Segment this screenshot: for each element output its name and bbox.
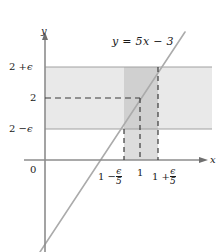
x-tick-label-center: 1 [137, 168, 143, 178]
equation-label: y = 5x − 3 [112, 36, 174, 47]
x-tick-lower-denominator: 5 [116, 176, 122, 186]
y-tick-upper-main: 2 + [9, 61, 27, 72]
x-tick-lower-fraction: ϵ5 [116, 167, 122, 187]
x-tick-label-lower: 1 −ϵ5 [98, 168, 122, 188]
y-tick-lower-epsilon: ϵ [27, 123, 33, 134]
y-tick-lower-main: 2 − [9, 123, 27, 134]
x-axis-label: x [210, 155, 216, 165]
x-tick-label-upper: 1 +ϵ5 [152, 168, 176, 188]
x-tick-upper-numerator: ϵ [170, 167, 176, 176]
y-tick-upper-epsilon: ϵ [27, 61, 33, 72]
y-tick-label-upper: 2 +ϵ [9, 62, 33, 72]
y-axis-label: y [41, 26, 47, 36]
x-tick-upper-lead: 1 + [152, 171, 170, 182]
function-line [40, 32, 185, 252]
figure-canvas [0, 0, 222, 252]
x-tick-lower-lead: 1 − [98, 171, 116, 182]
x-axis-arrow [199, 157, 208, 163]
y-tick-label-lower: 2 −ϵ [9, 124, 33, 134]
x-tick-upper-fraction: ϵ5 [170, 167, 176, 187]
origin-label: 0 [30, 165, 36, 175]
x-tick-upper-denominator: 5 [170, 176, 176, 186]
limit-epsilon-delta-figure: y = 5x − 3 y x 0 2 +ϵ 2 2 −ϵ 1 −ϵ5 1 1 +… [0, 0, 222, 252]
y-tick-label-center: 2 [30, 93, 36, 103]
x-tick-lower-numerator: ϵ [116, 167, 122, 176]
